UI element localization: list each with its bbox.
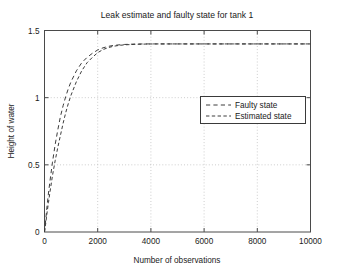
figure-container: 0200040006000800010000 00.511.5 Leak est… bbox=[0, 0, 339, 276]
data-series bbox=[45, 44, 311, 232]
x-tick-label: 10000 bbox=[299, 237, 322, 246]
y-tick-labels: 00.511.5 bbox=[28, 27, 40, 238]
series-line-estimated-state bbox=[45, 44, 311, 232]
x-tick-label: 8000 bbox=[248, 237, 267, 246]
x-tick-label: 0 bbox=[42, 237, 47, 246]
x-tick-labels: 0200040006000800010000 bbox=[42, 237, 322, 246]
legend[interactable]: Faulty state Estimated state bbox=[201, 97, 306, 124]
y-tick-label: 0.5 bbox=[28, 161, 40, 170]
chart-canvas: 0200040006000800010000 00.511.5 Leak est… bbox=[0, 0, 339, 276]
legend-label-estimated-state: Estimated state bbox=[235, 112, 292, 121]
chart-title: Leak estimate and faulty state for tank … bbox=[101, 10, 254, 20]
legend-label-faulty-state: Faulty state bbox=[235, 101, 278, 110]
y-tick-label: 0 bbox=[35, 228, 40, 237]
y-tick-label: 1.5 bbox=[28, 27, 40, 36]
x-axis-label: Number of observations bbox=[134, 256, 221, 265]
series-line-faulty-state bbox=[45, 44, 311, 232]
y-axis-label: Height of water bbox=[7, 103, 16, 158]
x-tick-label: 6000 bbox=[195, 237, 214, 246]
x-tick-label: 4000 bbox=[142, 237, 161, 246]
x-tick-label: 2000 bbox=[89, 237, 108, 246]
y-tick-label: 1 bbox=[35, 94, 40, 103]
